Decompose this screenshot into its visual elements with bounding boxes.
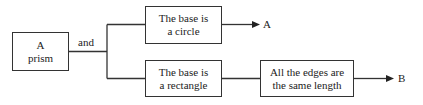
node-circle-line2: a circle: [159, 25, 208, 38]
node-rectangle-line1: The base is: [159, 66, 208, 79]
node-base-circle: The base is a circle: [145, 6, 222, 44]
node-edges-line1: All the edges are: [270, 66, 344, 79]
node-prism: A prism: [12, 32, 69, 71]
connector-label-and: and: [78, 36, 94, 48]
node-prism-line1: A: [28, 39, 53, 52]
node-edges-same-length: All the edges are the same length: [260, 60, 354, 97]
outcome-b: B: [398, 72, 405, 84]
node-prism-line2: prism: [28, 52, 53, 65]
node-edges-line2: the same length: [270, 79, 344, 92]
arrow-head-a-icon: [252, 21, 260, 28]
node-rectangle-line2: a rectangle: [159, 79, 208, 92]
node-base-rectangle: The base is a rectangle: [145, 60, 222, 97]
outcome-a: A: [263, 18, 271, 30]
arrow-head-b-icon: [386, 75, 394, 82]
node-circle-line1: The base is: [159, 12, 208, 25]
